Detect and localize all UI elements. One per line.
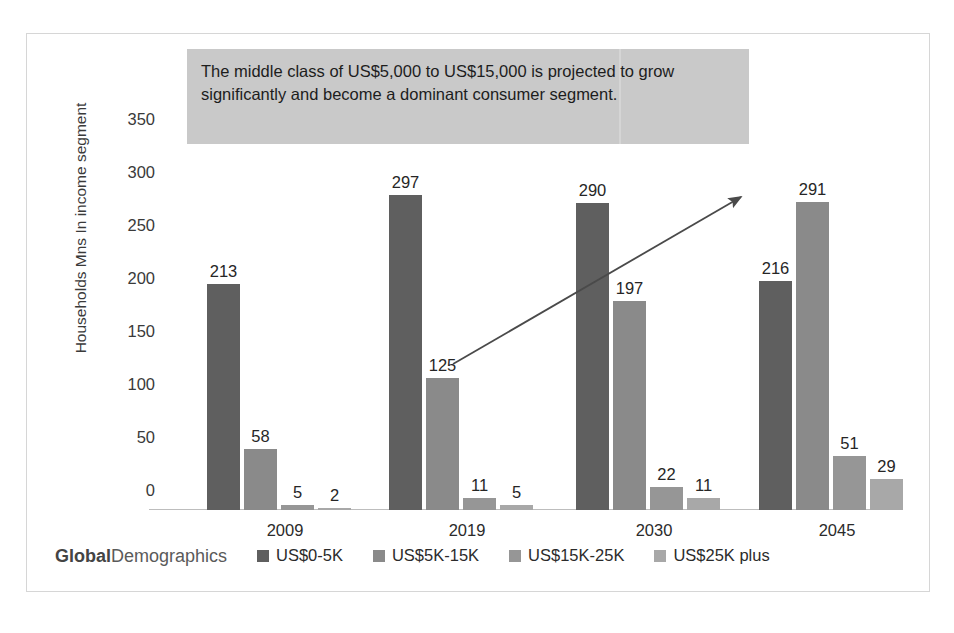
bar-value-label: 51 [840, 434, 858, 453]
y-axis-tick: 300 [127, 163, 155, 182]
y-axis-tick: 100 [127, 375, 155, 394]
bar[interactable] [613, 301, 646, 510]
bar-group: 21629151292045 [759, 139, 919, 510]
bar-wrapper: 2 [318, 508, 351, 510]
bar-wrapper: 216 [759, 281, 792, 510]
brand-logo: GlobalDemographics [55, 546, 227, 567]
bar-group-bars: 2901972211 [576, 139, 736, 510]
y-axis-tick: 250 [127, 216, 155, 235]
bar-value-label: 297 [392, 173, 420, 192]
bar-wrapper: 5 [500, 505, 533, 510]
bar-group: 21358522009 [207, 139, 367, 510]
bar-value-label: 125 [429, 356, 457, 375]
bar-wrapper: 58 [244, 449, 277, 510]
bar-wrapper: 11 [687, 498, 720, 510]
bar[interactable] [389, 195, 422, 510]
bar-group: 2971251152019 [389, 139, 549, 510]
y-axis-tick: 350 [127, 110, 155, 129]
bar-wrapper: 22 [650, 487, 683, 510]
bar-value-label: 5 [293, 483, 302, 502]
bar-wrapper: 11 [463, 498, 496, 510]
legend-swatch [373, 550, 385, 562]
bar-value-label: 11 [695, 476, 712, 495]
bar-group-bars: 297125115 [389, 139, 549, 510]
y-axis-tick: 150 [127, 322, 155, 341]
bar-value-label: 197 [616, 279, 644, 298]
bar[interactable] [281, 505, 314, 510]
y-axis-tick: 0 [146, 481, 155, 500]
bar[interactable] [318, 508, 351, 510]
brand-name-strong: Global [55, 546, 111, 566]
legend-label: US$5K-15K [392, 546, 479, 565]
annotation-text: The middle class of US$5,000 to US$15,00… [201, 60, 735, 107]
x-axis-tick: 2019 [449, 521, 486, 540]
bar[interactable] [426, 378, 459, 511]
bar-wrapper: 51 [833, 456, 866, 510]
x-axis-tick: 2009 [267, 521, 304, 540]
legend-swatch [257, 550, 269, 562]
bar-value-label: 11 [471, 476, 488, 495]
bar-group: 29019722112030 [576, 139, 736, 510]
bar[interactable] [244, 449, 277, 510]
legend-swatch [509, 550, 521, 562]
chart-frame: The middle class of US$5,000 to US$15,00… [26, 33, 930, 592]
y-axis-title: Households Mns In income segment [72, 78, 90, 378]
annotation-callout: The middle class of US$5,000 to US$15,00… [187, 49, 749, 144]
bar-value-label: 58 [251, 427, 269, 446]
bar-wrapper: 125 [426, 378, 459, 511]
legend-item[interactable]: US$5K-15K [373, 546, 479, 565]
legend-label: US$15K-25K [528, 546, 624, 565]
bar-wrapper: 291 [796, 202, 829, 510]
plot-area: 050100150200250300350 213585220092971251… [167, 139, 902, 510]
chart-legend: US$0-5KUS$5K-15KUS$15K-25KUS$25K plus [257, 546, 770, 565]
bar-value-label: 291 [799, 180, 827, 199]
bar[interactable] [463, 498, 496, 510]
legend-label: US$0-5K [276, 546, 343, 565]
bar-value-label: 213 [210, 262, 238, 281]
y-axis-tick: 200 [127, 269, 155, 288]
legend-item[interactable]: US$15K-25K [509, 546, 624, 565]
bar-wrapper: 29 [870, 479, 903, 510]
x-axis-tick: 2045 [819, 521, 856, 540]
bar-wrapper: 213 [207, 284, 240, 510]
bar[interactable] [500, 505, 533, 510]
bar-value-label: 22 [657, 465, 675, 484]
bar[interactable] [650, 487, 683, 510]
bar[interactable] [207, 284, 240, 510]
bar-group-bars: 2162915129 [759, 139, 919, 510]
bar-wrapper: 290 [576, 203, 609, 510]
x-axis-tick: 2030 [636, 521, 673, 540]
bar-value-label: 2 [330, 486, 339, 505]
legend-item[interactable]: US$25K plus [654, 546, 769, 565]
legend-label: US$25K plus [673, 546, 769, 565]
legend-swatch [654, 550, 666, 562]
bar-value-label: 29 [877, 457, 895, 476]
legend-item[interactable]: US$0-5K [257, 546, 343, 565]
bar-wrapper: 197 [613, 301, 646, 510]
bar[interactable] [687, 498, 720, 510]
bar-group-bars: 2135852 [207, 139, 367, 510]
y-axis-tick: 50 [137, 428, 155, 447]
bar-value-label: 216 [762, 259, 790, 278]
bar-value-label: 290 [579, 181, 607, 200]
brand-name-rest: Demographics [111, 546, 227, 566]
bar[interactable] [796, 202, 829, 510]
bar[interactable] [870, 479, 903, 510]
bar[interactable] [576, 203, 609, 510]
bar[interactable] [759, 281, 792, 510]
bar-wrapper: 297 [389, 195, 422, 510]
bar-value-label: 5 [512, 483, 521, 502]
bar[interactable] [833, 456, 866, 510]
bar-wrapper: 5 [281, 505, 314, 510]
